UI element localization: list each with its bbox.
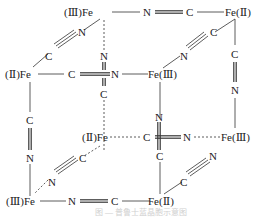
atom-n: N [155, 111, 163, 123]
atom-c: C [26, 114, 33, 126]
atom-n: N [143, 6, 151, 18]
atom-n: N [180, 50, 188, 62]
atom-n: N [26, 152, 34, 164]
atom-c: C [68, 68, 75, 80]
atom-n: N [231, 84, 239, 96]
fe-node-back-top-left: (Ⅲ)Fe [64, 6, 93, 18]
fe-node-back-bottom-left: (Ⅱ)Fe [82, 131, 108, 143]
figure-caption: 图 — 普鲁士蓝晶胞示意图 [95, 206, 187, 217]
atom-c: C [231, 48, 238, 60]
atom-n: N [209, 150, 217, 162]
atom-c: C [180, 176, 187, 188]
atom-n: N [78, 26, 86, 38]
diagram-lines [0, 0, 264, 220]
atom-c: C [143, 131, 150, 143]
atom-n: N [111, 68, 119, 80]
fe-node-back-top-right: Fe(Ⅱ) [225, 6, 251, 18]
atom-c: C [79, 152, 86, 164]
atom-n: N [183, 131, 191, 143]
atom-n: N [100, 50, 108, 62]
atom-n: N [68, 195, 76, 207]
atom-c: C [210, 26, 217, 38]
atom-n: N [48, 176, 56, 188]
atom-c: C [156, 150, 163, 162]
fe-node-front-top-right: Fe(Ⅲ) [148, 68, 177, 80]
atom-c: C [100, 88, 107, 100]
fe-node-back-bottom-right: Fe(Ⅲ) [221, 131, 250, 143]
fe-node-front-bottom-left: (Ⅲ)Fe [6, 195, 35, 207]
fe-node-front-top-left: (Ⅱ)Fe [5, 68, 31, 80]
atom-c: C [45, 50, 52, 62]
atom-c: C [186, 6, 193, 18]
